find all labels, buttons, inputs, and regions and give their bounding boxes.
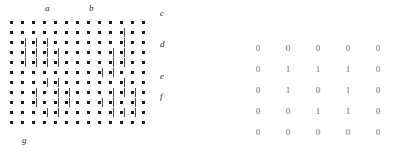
lattice-dot-icon: [65, 61, 68, 64]
lattice-dot-icon: [10, 51, 13, 54]
lattice-cell: [131, 98, 142, 108]
lattice-cell: [120, 48, 131, 58]
lattice-cell: [65, 58, 76, 68]
lattice-row: [10, 68, 153, 78]
lattice-cell: [10, 18, 21, 28]
lattice-bar-icon: [69, 88, 70, 97]
figure-canvas: a b c d e f g 0000001110010100011000000: [0, 0, 397, 160]
lattice-cell: [65, 88, 76, 98]
lattice-cell: [109, 18, 120, 28]
matrix-cell: 0: [273, 128, 303, 137]
lattice-cell: [65, 108, 76, 118]
lattice-dot-icon: [142, 121, 145, 124]
lattice-dot-icon: [98, 81, 101, 84]
lattice-cell: [98, 18, 109, 28]
lattice-dot-icon: [120, 111, 123, 114]
lattice-panel: a b c d e f g: [0, 0, 200, 160]
lattice-dot-icon: [87, 31, 90, 34]
lattice-cell: [21, 18, 32, 28]
lattice-dot-icon: [142, 81, 145, 84]
matrix-cell: 0: [243, 44, 273, 53]
lattice-cell: [10, 78, 21, 88]
lattice-row: [10, 78, 153, 88]
lattice-dot-icon: [87, 71, 90, 74]
lattice-bar-icon: [47, 58, 48, 67]
lattice-dot-icon: [32, 111, 35, 114]
lattice-cell: [65, 38, 76, 48]
lattice-bar-icon: [25, 48, 26, 57]
lattice-dot-icon: [32, 21, 35, 24]
lattice-dot-icon: [142, 21, 145, 24]
matrix-cell: 0: [243, 65, 273, 74]
lattice-dot-icon: [10, 71, 13, 74]
lattice-cell: [54, 18, 65, 28]
lattice-dot-icon: [32, 91, 35, 94]
lattice-dot-icon: [98, 111, 101, 114]
lattice-dot-icon: [131, 61, 134, 64]
lattice-dot-icon: [54, 21, 57, 24]
lattice-cell: [65, 118, 76, 128]
lattice-dot-icon: [21, 121, 24, 124]
lattice-dot-icon: [142, 31, 145, 34]
lattice-dot-icon: [131, 91, 134, 94]
matrix-cell: 0: [363, 86, 393, 95]
lattice-row: [10, 108, 153, 118]
lattice-bar-icon: [113, 98, 114, 107]
lattice-cell: [76, 78, 87, 88]
lattice-cell: [109, 58, 120, 68]
lattice-cell: [65, 68, 76, 78]
lattice-cell: [120, 118, 131, 128]
lattice-dot-icon: [54, 111, 57, 114]
lattice-cell: [98, 98, 109, 108]
lattice-row: [10, 98, 153, 108]
lattice-dot-icon: [76, 31, 79, 34]
lattice-cell: [120, 18, 131, 28]
lattice-dot-icon: [43, 71, 46, 74]
lattice-cell: [10, 98, 21, 108]
lattice-cell: [87, 108, 98, 118]
lattice-cell: [65, 18, 76, 28]
lattice-dot-icon: [10, 91, 13, 94]
lattice-cell: [32, 38, 43, 48]
lattice-cell: [65, 98, 76, 108]
lattice-dot-icon: [54, 31, 57, 34]
lattice-cell: [43, 38, 54, 48]
lattice-label-c: c: [160, 9, 164, 18]
lattice-dot-icon: [76, 81, 79, 84]
lattice-cell: [32, 108, 43, 118]
lattice-bar-icon: [124, 38, 125, 47]
lattice-bar-icon: [47, 48, 48, 57]
lattice-cell: [87, 18, 98, 28]
lattice-cell: [10, 38, 21, 48]
lattice-dot-icon: [54, 41, 57, 44]
lattice-cell: [54, 58, 65, 68]
lattice-row: [10, 58, 153, 68]
lattice-cell: [21, 118, 32, 128]
matrix-cell: 1: [273, 65, 303, 74]
lattice-dot-icon: [131, 101, 134, 104]
matrix-row: 01110: [243, 59, 393, 80]
lattice-dot-icon: [131, 121, 134, 124]
lattice-dot-icon: [120, 101, 123, 104]
lattice-dot-icon: [21, 61, 24, 64]
lattice-dot-icon: [10, 101, 13, 104]
lattice-dot-icon: [43, 61, 46, 64]
lattice-bar-icon: [36, 48, 37, 57]
lattice-dot-icon: [131, 81, 134, 84]
lattice-dot-icon: [131, 41, 134, 44]
lattice-dot-icon: [10, 31, 13, 34]
lattice-dot-icon: [87, 111, 90, 114]
lattice-dot-icon: [21, 81, 24, 84]
lattice-row: [10, 118, 153, 128]
lattice-dot-icon: [109, 111, 112, 114]
lattice-cell: [131, 88, 142, 98]
lattice-dot-icon: [43, 51, 46, 54]
lattice-dot-icon: [76, 91, 79, 94]
lattice-bar-icon: [102, 98, 103, 107]
lattice-bar-icon: [113, 108, 114, 117]
lattice-cell: [32, 18, 43, 28]
lattice-bar-icon: [113, 88, 114, 97]
lattice-row: [10, 28, 153, 38]
lattice-cell: [98, 118, 109, 128]
lattice-cell: [142, 18, 153, 28]
